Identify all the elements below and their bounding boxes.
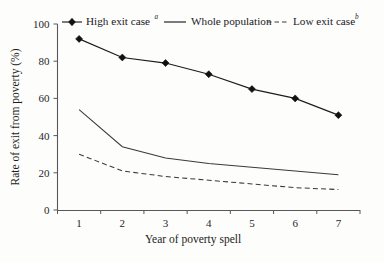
legend-label-low-exit-case: Low exit case [293, 15, 355, 27]
data-point-marker [292, 95, 299, 102]
poverty-exit-rate-chart: High exit case a Whole population Low ex… [0, 0, 384, 262]
legend-superscript-b: b [355, 13, 359, 21]
series-line-low-exit-case [79, 154, 338, 189]
data-point-marker [248, 86, 255, 93]
x-axis-ticks: 1234567 [58, 210, 361, 229]
data-point-marker [205, 71, 212, 78]
legend-label-high-exit-case: High exit case [86, 15, 150, 27]
chart-axes [58, 24, 361, 211]
legend-item-low-exit-case: Low exit case b [267, 13, 359, 27]
x-tick-label: 4 [206, 217, 212, 229]
y-tick-label: 0 [44, 204, 50, 216]
x-tick-label: 3 [163, 217, 169, 229]
x-tick-label: 1 [76, 217, 82, 229]
legend-label-whole-population: Whole population [191, 15, 272, 27]
y-axis-ticks: 020406080100 [33, 18, 58, 216]
x-tick-label: 6 [292, 217, 298, 229]
data-point-marker [162, 60, 169, 67]
y-tick-label: 100 [33, 18, 50, 30]
x-axis-title: Year of poverty spell [145, 233, 241, 246]
chart-canvas: High exit case a Whole population Low ex… [0, 0, 384, 262]
y-axis-title: Rate of exit from poverty (%) [9, 48, 22, 185]
y-tick-label: 40 [39, 130, 51, 142]
data-point-marker [119, 54, 126, 61]
y-tick-label: 20 [39, 167, 51, 179]
legend-item-high-exit-case: High exit case a [62, 13, 159, 27]
data-point-marker [335, 112, 342, 119]
y-tick-label: 60 [39, 92, 51, 104]
series-markers-high-exit-case [76, 35, 342, 118]
data-point-marker [76, 35, 83, 42]
chart-legend: High exit case a Whole population Low ex… [62, 13, 359, 27]
x-tick-label: 7 [336, 217, 342, 229]
x-tick-label: 2 [120, 217, 126, 229]
legend-item-whole-population: Whole population [164, 15, 272, 27]
y-tick-label: 80 [39, 55, 51, 67]
chart-series [76, 35, 342, 189]
legend-superscript-a: a [155, 13, 159, 21]
legend-diamond-icon [69, 18, 76, 26]
series-line-whole-population [79, 110, 338, 175]
x-tick-label: 5 [249, 217, 255, 229]
